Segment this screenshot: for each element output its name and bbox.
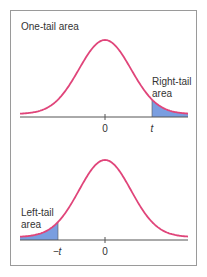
t-distribution-diagram (0, 0, 207, 277)
right-tail-label-line1: Right-tail (152, 76, 191, 87)
right-tail-label-line2: area (152, 88, 172, 99)
bottom-center-tick-label: 0 (102, 246, 108, 257)
left-tail-label-line2: area (21, 219, 41, 230)
top-panel-title: One-tail area (21, 21, 79, 32)
right-tail-shaded-area (152, 100, 188, 117)
bottom-density-curve (20, 160, 188, 237)
bottom-panel (20, 160, 188, 243)
left-tail-label-line1: Left-tail (21, 207, 54, 218)
top-cutoff-tick-label: t (151, 123, 154, 134)
top-center-tick-label: 0 (102, 123, 108, 134)
bottom-cutoff-tick-label: −t (53, 246, 62, 257)
